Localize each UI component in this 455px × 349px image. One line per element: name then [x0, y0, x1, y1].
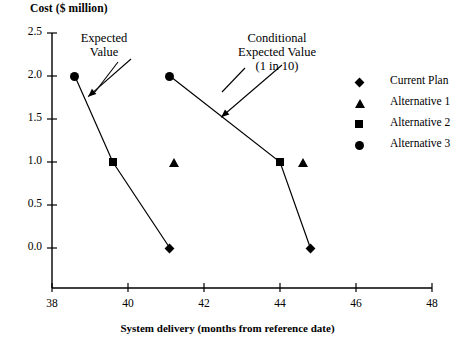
- legend-marker-square-icon: [350, 114, 370, 135]
- legend-marker-triangle-icon: [350, 93, 370, 114]
- legend-swatch-circle: [355, 141, 364, 150]
- annotation-conditional-line2: Expected Value: [218, 45, 336, 59]
- legend-swatch-diamond: [354, 77, 364, 87]
- annotation-conditional-expected-value: Conditional Expected Value (1 in 10): [218, 31, 336, 73]
- y-axis-tick-label: 1.5: [8, 111, 42, 123]
- x-axis-tick-label: 40: [113, 297, 143, 309]
- data-point-circle: [70, 72, 79, 81]
- x-axis-tick-label: 46: [341, 297, 371, 309]
- legend-marker-circle-icon: [350, 135, 370, 156]
- data-point-diamond: [305, 243, 315, 253]
- x-axis-tick-label: 44: [265, 297, 295, 309]
- annotation-expected-value-line1: Expected: [62, 31, 146, 45]
- x-axis-tick-label: 48: [417, 297, 447, 309]
- legend-marker-diamond-icon: [350, 72, 370, 93]
- y-axis-title: Cost ($ million): [30, 2, 108, 14]
- data-point-square: [109, 158, 117, 166]
- annotation-expected-value-line2: Value: [62, 45, 146, 59]
- legend-label: Alternative 1: [390, 95, 450, 107]
- data-point-diamond: [165, 243, 175, 253]
- y-axis-tick-label: 0.5: [8, 197, 42, 209]
- chart-container: Cost ($ million) 0.00.51.01.52.02.5 3840…: [0, 0, 455, 349]
- annotation-expected-value: Expected Value: [62, 31, 146, 59]
- x-axis-title: System delivery (months from reference d…: [0, 322, 455, 334]
- legend-label: Current Plan: [390, 74, 448, 86]
- data-point-square: [276, 158, 284, 166]
- annotation-conditional-line3: (1 in 10): [218, 59, 336, 73]
- legend-label: Alternative 3: [390, 137, 450, 149]
- legend-swatch-square: [355, 120, 363, 128]
- x-axis-tick-label: 38: [37, 297, 67, 309]
- annotation-conditional-line1: Conditional: [218, 31, 336, 45]
- data-point-circle: [165, 72, 174, 81]
- legend-label: Alternative 2: [390, 116, 450, 128]
- x-axis-tick-label: 42: [189, 297, 219, 309]
- y-axis-tick-label: 1.0: [8, 154, 42, 166]
- y-axis-tick-label: 2.5: [8, 25, 42, 37]
- legend-swatch-triangle: [355, 99, 365, 108]
- y-axis-tick-label: 0.0: [8, 240, 42, 252]
- data-point-triangle: [298, 158, 308, 167]
- data-point-triangle: [169, 158, 179, 167]
- y-axis-tick-label: 2.0: [8, 68, 42, 80]
